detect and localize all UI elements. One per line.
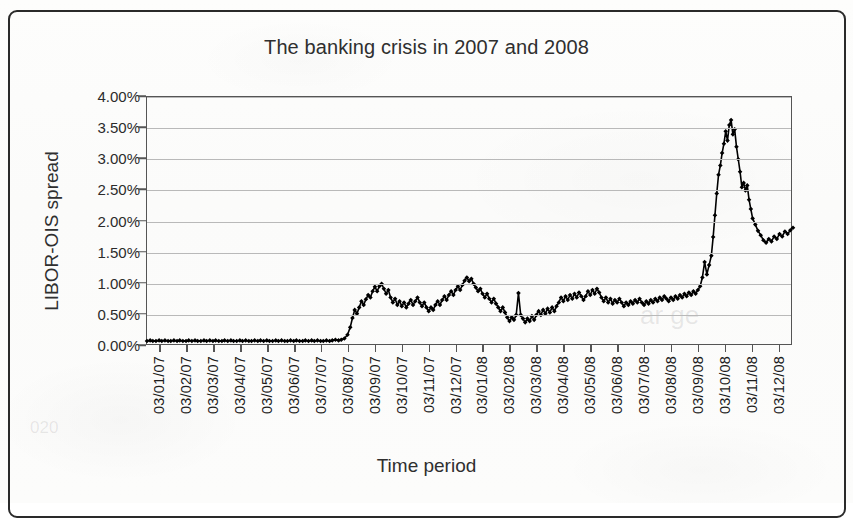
- y-axis-tick-mark: [138, 344, 146, 346]
- x-axis-tick-mark: [186, 345, 188, 352]
- y-axis-tick-label: 0.00%: [68, 337, 140, 354]
- x-axis-tick-label: 03/10/08: [717, 356, 733, 442]
- y-axis-tick-label: 2.50%: [68, 181, 140, 198]
- y-axis-tick-mark: [138, 95, 146, 97]
- x-axis-tick-label: 03/09/08: [690, 356, 706, 442]
- x-axis-tick-mark: [698, 345, 700, 352]
- x-axis-tick-label: 03/12/07: [448, 356, 464, 442]
- series-marker-group: [145, 118, 796, 344]
- y-axis-tick-label: 4.00%: [68, 88, 140, 105]
- x-axis-tick-mark: [617, 345, 619, 352]
- chart-title: The banking crisis in 2007 and 2008: [0, 36, 853, 59]
- x-axis-tick-label: 03/12/08: [771, 356, 787, 442]
- y-axis-tick-label: 3.00%: [68, 150, 140, 167]
- y-axis-tick-labels: 0.00%0.50%1.00%1.50%2.00%2.50%3.00%3.50%…: [62, 96, 140, 345]
- x-axis-tick-label: 03/11/08: [744, 356, 760, 442]
- x-axis-tick-label: 03/08/08: [663, 356, 679, 442]
- y-axis-tick-mark: [138, 126, 146, 128]
- series-line: [147, 120, 793, 341]
- y-axis-tick-mark: [138, 220, 146, 222]
- x-axis-tick-mark: [752, 345, 754, 352]
- y-axis-tick-label: 0.50%: [68, 305, 140, 322]
- x-axis-tick-label: 03/06/07: [286, 356, 302, 442]
- x-axis-tick-label: 03/11/07: [421, 356, 437, 442]
- x-axis-tick-label: 03/03/07: [205, 356, 221, 442]
- gridline: [147, 315, 791, 316]
- x-axis-tick-mark: [725, 345, 727, 352]
- x-axis-tick-mark: [159, 345, 161, 352]
- y-axis-tick-mark: [138, 282, 146, 284]
- gridline: [147, 128, 791, 129]
- y-axis-title: LIBOR-OIS spread: [41, 116, 63, 346]
- x-axis-tick-mark: [456, 345, 458, 352]
- x-axis-tick-mark: [779, 345, 781, 352]
- x-axis-tick-mark: [644, 345, 646, 352]
- x-axis-tick-mark: [429, 345, 431, 352]
- x-axis-title: Time period: [0, 455, 853, 477]
- x-axis-tick-mark: [321, 345, 323, 352]
- x-axis-tick-label: 03/05/07: [259, 356, 275, 442]
- x-axis-tick-mark: [240, 345, 242, 352]
- x-axis-tick-mark: [348, 345, 350, 352]
- x-axis-tick-label: 03/02/08: [501, 356, 517, 442]
- x-axis-tick-mark: [482, 345, 484, 352]
- y-axis-tick-label: 3.50%: [68, 119, 140, 136]
- x-axis-tick-label: 03/04/07: [232, 356, 248, 442]
- x-axis-tick-label: 03/05/08: [582, 356, 598, 442]
- y-axis-tick-label: 1.50%: [68, 243, 140, 260]
- x-axis-tick-mark: [590, 345, 592, 352]
- x-axis-tick-label: 03/07/07: [313, 356, 329, 442]
- x-axis-tick-label: 03/01/07: [151, 356, 167, 442]
- x-axis-tick-label: 03/02/07: [178, 356, 194, 442]
- x-axis-tick-mark: [671, 345, 673, 352]
- x-axis-tick-label: 03/06/08: [609, 356, 625, 442]
- gridline: [147, 190, 791, 191]
- x-axis-tick-mark: [267, 345, 269, 352]
- y-axis-tick-mark: [138, 158, 146, 160]
- x-axis-tick-label: 03/03/08: [528, 356, 544, 442]
- x-axis-tick-mark: [563, 345, 565, 352]
- x-axis-tick-label: 03/07/08: [636, 356, 652, 442]
- x-axis-tick-mark: [509, 345, 511, 352]
- gridline: [147, 159, 791, 160]
- y-axis-tick-label: 2.00%: [68, 212, 140, 229]
- gridline: [147, 222, 791, 223]
- x-axis-tick-mark: [213, 345, 215, 352]
- x-axis-tick-label: 03/09/07: [367, 356, 383, 442]
- x-axis-tick-label: 03/08/07: [340, 356, 356, 442]
- y-axis-tick-label: 1.00%: [68, 274, 140, 291]
- gridline: [147, 97, 791, 98]
- gridline: [147, 253, 791, 254]
- gridline: [147, 284, 791, 285]
- x-axis-tick-mark: [375, 345, 377, 352]
- x-axis-tick-label: 03/04/08: [555, 356, 571, 442]
- x-axis-tick-mark: [402, 345, 404, 352]
- x-axis-tick-mark: [536, 345, 538, 352]
- x-axis-tick-label: 03/10/07: [394, 356, 410, 442]
- x-axis-tick-mark: [294, 345, 296, 352]
- x-axis-tick-label: 03/01/08: [474, 356, 490, 442]
- series-markers: [145, 118, 796, 344]
- y-axis-tick-mark: [138, 251, 146, 253]
- y-axis-tick-mark: [138, 189, 146, 191]
- y-axis-tick-mark: [138, 313, 146, 315]
- plot-area: [146, 96, 792, 345]
